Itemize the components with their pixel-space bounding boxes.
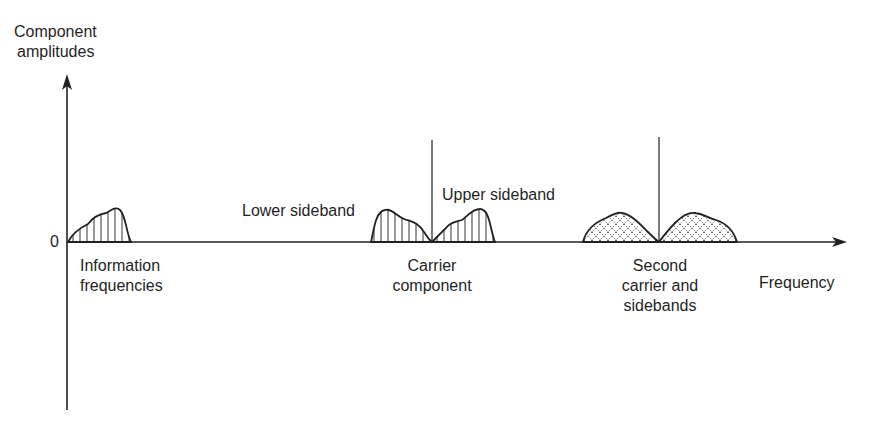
y-axis-label: Component amplitudes bbox=[14, 22, 97, 62]
information-band bbox=[68, 208, 131, 242]
upper-sideband-band bbox=[432, 209, 495, 242]
spectrum-diagram bbox=[0, 0, 870, 434]
carrier-component-label: Carrier component bbox=[370, 256, 494, 296]
information-frequencies-label: Information frequencies bbox=[80, 256, 163, 296]
frequency-label: Frequency bbox=[759, 273, 835, 293]
second-carrier-label: Second carrier and sidebands bbox=[598, 256, 722, 316]
lower-sideband-band bbox=[371, 210, 432, 242]
lower-sideband-label: Lower sideband bbox=[242, 201, 355, 221]
second-lower-sideband-band bbox=[583, 213, 659, 242]
second-upper-sideband-band bbox=[659, 213, 737, 242]
upper-sideband-label: Upper sideband bbox=[442, 185, 555, 205]
origin-label: 0 bbox=[50, 232, 59, 252]
